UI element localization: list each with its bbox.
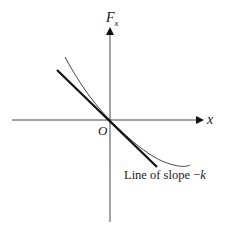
y-axis-arrow-icon: [106, 27, 114, 35]
x-axis-arrow-icon: [196, 116, 204, 124]
line-label-text: Line of slope −: [124, 168, 200, 182]
y-axis-label-subscript: x: [115, 18, 119, 28]
force-displacement-diagram: Fx x O Line of slope −k: [0, 0, 227, 233]
x-axis-label: x: [207, 112, 213, 128]
diagram-graphics: [0, 0, 227, 233]
y-axis-label-main: F: [106, 10, 115, 25]
force-curve: [65, 57, 190, 166]
line-label-variable: k: [200, 168, 206, 182]
tangent-line: [57, 70, 157, 167]
line-label: Line of slope −k: [124, 168, 206, 183]
origin-label: O: [98, 123, 107, 139]
y-axis-label: Fx: [106, 10, 119, 28]
